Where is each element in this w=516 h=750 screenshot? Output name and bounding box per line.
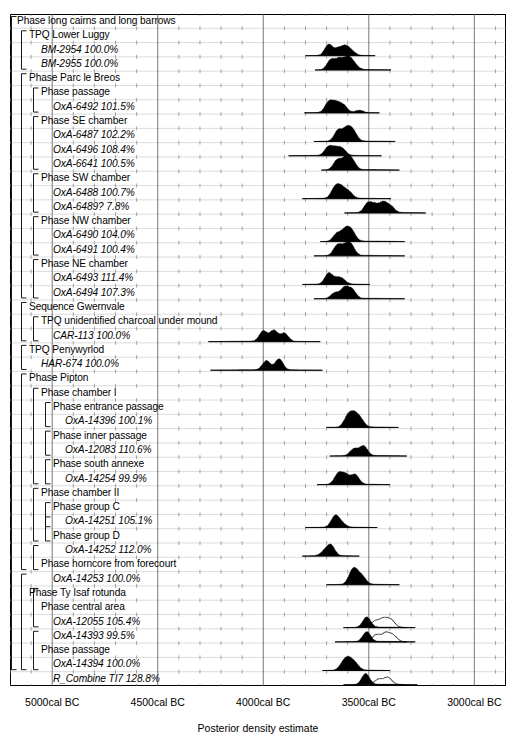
- phase-row: Phase horncore from forecourt: [10, 557, 506, 571]
- date-row: OxA-6489? 7.8%: [10, 200, 506, 214]
- phase-label: Phase long cairns and long barrows: [17, 14, 176, 28]
- sample-label: OxA-6492 101.5%: [53, 100, 135, 114]
- date-row: OxA-14252 112.0%: [10, 543, 506, 557]
- phase-label: Phase SE chamber: [41, 114, 127, 128]
- phase-row: Phase central area: [10, 600, 506, 614]
- date-row: HAR-674 100.0%: [10, 357, 506, 371]
- phase-label: Phase group D: [53, 529, 120, 543]
- phase-row: Phase SE chamber: [10, 114, 506, 128]
- phase-row: TPQ unidentified charcoal under mound: [10, 314, 506, 328]
- phase-row: Phase long cairns and long barrows: [10, 14, 506, 28]
- phase-label: Phase Ty Isaf rotunda: [29, 586, 126, 600]
- row-labels: Phase long cairns and long barrowsTPQ Lo…: [10, 14, 506, 686]
- phase-row: Phase passage: [10, 85, 506, 99]
- date-row: OxA-6488 100.7%: [10, 186, 506, 200]
- x-axis-title: Posterior density estimate: [0, 722, 516, 734]
- phase-label: Phase inner passage: [53, 429, 147, 443]
- sample-label: R_Combine TI7 128.8%: [53, 672, 160, 686]
- phase-label: TPQ Lower Luggy: [29, 28, 110, 42]
- phase-row: Phase SW chamber: [10, 171, 506, 185]
- phase-row: Phase chamber I: [10, 386, 506, 400]
- sample-label: OxA-14394 100.0%: [53, 657, 140, 671]
- phase-label: Phase NW chamber: [41, 214, 131, 228]
- phase-row: Phase inner passage: [10, 429, 506, 443]
- phase-label: Phase entrance passage: [53, 400, 164, 414]
- phase-label: Phase Pipton: [29, 371, 88, 385]
- phase-row: Phase NE chamber: [10, 257, 506, 271]
- phase-row: Phase Parc le Breos: [10, 71, 506, 85]
- phase-label: Phase passage: [41, 85, 110, 99]
- phase-label: Phase horncore from forecourt: [41, 557, 176, 571]
- date-row: OxA-6490 104.0%: [10, 228, 506, 242]
- date-row: BM-2954 100.0%: [10, 43, 506, 57]
- phase-row: Phase entrance passage: [10, 400, 506, 414]
- date-row: BM-2955 100.0%: [10, 57, 506, 71]
- phase-label: Phase group C: [53, 500, 120, 514]
- phase-label: TPQ Penywyrlod: [29, 343, 104, 357]
- x-tick-label: 3000cal BC: [447, 696, 501, 708]
- x-tick-label: 3500cal BC: [342, 696, 396, 708]
- phase-label: Phase south annexe: [53, 457, 144, 471]
- sample-label: OxA-6496 108.4%: [53, 143, 135, 157]
- date-row: OxA-14251 105.1%: [10, 514, 506, 528]
- date-row: OxA-14394 100.0%: [10, 657, 506, 671]
- sample-label: OxA-12083 110.6%: [65, 443, 152, 457]
- phase-row: Phase group D: [10, 529, 506, 543]
- phase-row: Phase NW chamber: [10, 214, 506, 228]
- phase-label: Phase NE chamber: [41, 257, 128, 271]
- phase-label: Sequence Gwernvale: [29, 300, 125, 314]
- date-row: R_Combine TI7 128.8%: [10, 672, 506, 686]
- phase-row: Phase Ty Isaf rotunda: [10, 586, 506, 600]
- sample-label: OxA-14396 100.1%: [65, 414, 152, 428]
- posterior-density-chart: Phase long cairns and long barrowsTPQ Lo…: [10, 14, 506, 686]
- phase-row: TPQ Penywyrlod: [10, 343, 506, 357]
- date-row: OxA-14253 100.0%: [10, 572, 506, 586]
- date-row: OxA-6496 108.4%: [10, 143, 506, 157]
- phase-label: TPQ unidentified charcoal under mound: [41, 314, 217, 328]
- sample-label: OxA-6491 100.4%: [53, 243, 135, 257]
- sample-label: OxA-14251 105.1%: [65, 514, 152, 528]
- sample-label: OxA-6641 100.5%: [53, 157, 135, 171]
- date-row: OxA-6487 102.2%: [10, 128, 506, 142]
- date-row: OxA-6491 100.4%: [10, 243, 506, 257]
- phase-label: Phase chamber II: [41, 486, 119, 500]
- sample-label: BM-2954 100.0%: [41, 43, 118, 57]
- sample-label: BM-2955 100.0%: [41, 57, 118, 71]
- sample-label: OxA-6487 102.2%: [53, 128, 135, 142]
- sample-label: OxA-14253 100.0%: [53, 572, 140, 586]
- date-row: OxA-12055 105.4%: [10, 615, 506, 629]
- date-row: OxA-6493 111.4%: [10, 271, 506, 285]
- phase-label: Phase chamber I: [41, 386, 117, 400]
- sample-label: OxA-6488 100.7%: [53, 186, 135, 200]
- phase-row: Phase Pipton: [10, 371, 506, 385]
- phase-row: Phase south annexe: [10, 457, 506, 471]
- sample-label: OxA-6489? 7.8%: [53, 200, 129, 214]
- phase-row: Phase chamber II: [10, 486, 506, 500]
- date-row: CAR-113 100.0%: [10, 329, 506, 343]
- phase-label: Phase Parc le Breos: [29, 71, 120, 85]
- sample-label: OxA-6490 104.0%: [53, 228, 135, 242]
- phase-row: TPQ Lower Luggy: [10, 28, 506, 42]
- date-row: OxA-14396 100.1%: [10, 414, 506, 428]
- phase-label: Phase SW chamber: [41, 171, 130, 185]
- phase-row: Phase group C: [10, 500, 506, 514]
- phase-label: Phase central area: [41, 600, 125, 614]
- x-tick-label: 4000cal BC: [236, 696, 290, 708]
- date-row: OxA-12083 110.6%: [10, 443, 506, 457]
- sample-label: OxA-14254 99.9%: [65, 472, 147, 486]
- date-row: OxA-6641 100.5%: [10, 157, 506, 171]
- sample-label: OxA-6494 107.3%: [53, 286, 135, 300]
- phase-row: Sequence Gwernvale: [10, 300, 506, 314]
- sample-label: OxA-14393 99.5%: [53, 629, 135, 643]
- sample-label: CAR-113 100.0%: [53, 329, 130, 343]
- date-row: OxA-14254 99.9%: [10, 472, 506, 486]
- date-row: OxA-14393 99.5%: [10, 629, 506, 643]
- sample-label: HAR-674 100.0%: [41, 357, 119, 371]
- date-row: OxA-6494 107.3%: [10, 286, 506, 300]
- x-tick-label: 4500cal BC: [131, 696, 185, 708]
- sample-label: OxA-12055 105.4%: [53, 615, 140, 629]
- phase-label: Phase passage: [41, 643, 110, 657]
- date-row: OxA-6492 101.5%: [10, 100, 506, 114]
- sample-label: OxA-14252 112.0%: [65, 543, 152, 557]
- phase-row: Phase passage: [10, 643, 506, 657]
